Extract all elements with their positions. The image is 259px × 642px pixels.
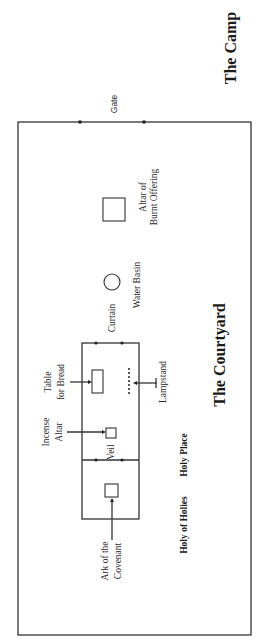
table-for-bread [92, 370, 103, 393]
water-basin-label: Water Basin [132, 262, 142, 309]
table-label-2: for Bread [56, 364, 66, 400]
courtyard-title: The Courtyard [211, 303, 229, 407]
altar-burnt-label-1: Altar of [138, 181, 148, 212]
gate-post-right [142, 120, 146, 124]
ark-label-2: Covenant [113, 542, 123, 579]
curtain-post-right [120, 341, 123, 344]
curtain-post-left [94, 341, 97, 344]
altar-of-burnt-offering [103, 198, 125, 221]
lampstand-label: Lampstand [158, 361, 168, 403]
holy-place-label: Holy Place [179, 433, 189, 477]
ark-arrowhead [110, 498, 114, 502]
ark-label-1: Ark of the [100, 541, 110, 580]
gate-label: Gate [109, 95, 119, 114]
veil-post-left [94, 458, 97, 461]
curtain-label: Curtain [107, 304, 117, 333]
incense-label-1: Incense [41, 417, 51, 446]
ark-of-the-covenant [105, 484, 118, 497]
veil-label: Veil [106, 444, 116, 460]
table-arrowhead [88, 380, 92, 384]
incense-arrowhead [102, 430, 106, 434]
water-basin [104, 274, 120, 290]
veil-post-right [120, 458, 123, 461]
camp-title: The Camp [222, 12, 240, 85]
holy-of-holies-label: Holy of Holies [179, 496, 189, 554]
gate-post-left [78, 120, 82, 124]
lampstand [128, 368, 130, 394]
incense-label-2: Altar [54, 421, 64, 441]
incense-altar [106, 428, 116, 438]
tabernacle-diagram: The Camp Gate Altar of Burnt Offering Wa… [0, 0, 259, 642]
table-label-1: Table [43, 372, 53, 393]
lampstand-arrowhead [133, 381, 137, 385]
altar-burnt-label-2: Burnt Offering [149, 168, 159, 225]
